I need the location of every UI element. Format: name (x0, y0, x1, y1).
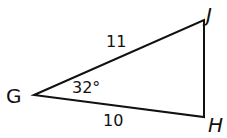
side-label-gj: 11 (106, 34, 126, 50)
side-label-gh: 10 (103, 113, 123, 129)
angle-label-g: 32° (72, 80, 100, 96)
vertex-label-j: J (206, 5, 212, 25)
vertex-label-g: G (6, 86, 22, 106)
vertex-label-h: H (208, 115, 223, 135)
